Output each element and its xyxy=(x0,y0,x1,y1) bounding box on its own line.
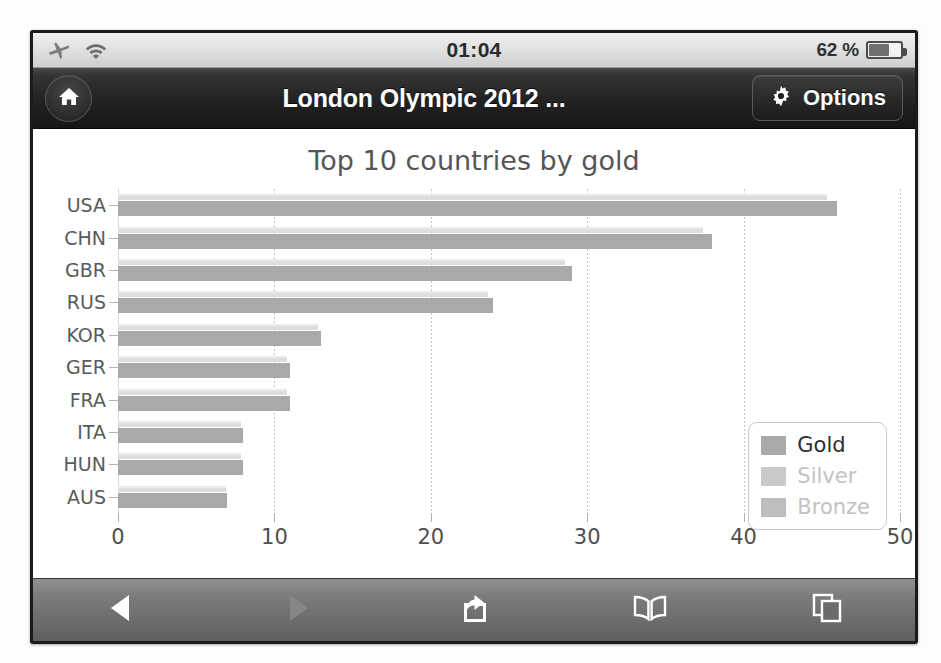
back-button[interactable] xyxy=(73,587,169,633)
y-axis-label-hun: HUN xyxy=(33,453,106,475)
home-icon xyxy=(58,86,80,111)
bar-gold xyxy=(118,331,321,346)
y-tick xyxy=(109,335,118,336)
legend-item-silver[interactable]: Silver xyxy=(761,464,870,488)
legend-label-gold: Gold xyxy=(797,433,845,457)
bar-silver xyxy=(118,423,241,427)
y-tick xyxy=(109,400,118,401)
bar-silver xyxy=(118,293,488,297)
bar-gold xyxy=(118,428,243,443)
bar-silver xyxy=(118,358,287,362)
chart-legend[interactable]: Gold Silver Bronze xyxy=(748,422,887,530)
share-icon xyxy=(458,592,490,628)
bar-gold xyxy=(118,460,243,475)
bar-silver xyxy=(118,326,318,330)
battery-icon xyxy=(866,41,903,59)
legend-swatch-gold xyxy=(761,436,786,455)
x-axis-label: 0 xyxy=(111,525,124,549)
legend-label-bronze: Bronze xyxy=(797,495,870,519)
x-axis-label: 50 xyxy=(887,525,914,549)
phone-device-frame: 01:04 62 % London Olympic 2012 ... Optio… xyxy=(30,30,918,644)
gridline-50 xyxy=(900,189,901,513)
bar-gold xyxy=(118,234,712,249)
forward-arrow-icon xyxy=(285,593,311,627)
x-tick-10 xyxy=(274,513,275,522)
legend-item-gold[interactable]: Gold xyxy=(761,433,870,457)
home-button[interactable] xyxy=(45,75,92,122)
bar-gold xyxy=(118,363,290,378)
screenshot-root: 01:04 62 % London Olympic 2012 ... Optio… xyxy=(0,0,941,663)
x-tick-0 xyxy=(118,513,119,522)
y-axis-label-ita: ITA xyxy=(33,421,106,443)
battery-fill xyxy=(869,44,889,56)
status-bar: 01:04 62 % xyxy=(33,33,915,68)
tabs-pages-icon xyxy=(812,593,842,627)
bar-silver xyxy=(118,229,703,233)
bar-group xyxy=(118,356,900,378)
bar-group xyxy=(118,227,900,249)
y-axis-label-kor: KOR xyxy=(33,324,106,346)
share-button[interactable] xyxy=(426,587,522,633)
bar-gold xyxy=(118,493,227,508)
bar-silver xyxy=(118,488,226,492)
bar-gold xyxy=(118,298,493,313)
y-tick xyxy=(109,432,118,433)
bar-gold xyxy=(118,201,837,216)
bar-silver xyxy=(118,261,565,265)
x-axis-label: 30 xyxy=(574,525,601,549)
legend-swatch-bronze xyxy=(761,498,786,517)
y-axis-label-chn: CHN xyxy=(33,227,106,249)
legend-item-bronze[interactable]: Bronze xyxy=(761,495,870,519)
y-axis-label-usa: USA xyxy=(33,194,106,216)
bar-silver xyxy=(118,196,827,200)
y-axis-label-gbr: GBR xyxy=(33,259,106,281)
bar-group xyxy=(118,291,900,313)
x-axis-label: 10 xyxy=(261,525,288,549)
browser-toolbar xyxy=(33,578,915,641)
bar-group xyxy=(118,194,900,216)
navigation-bar: London Olympic 2012 ... Options xyxy=(33,68,915,129)
back-arrow-icon xyxy=(108,593,134,627)
x-axis-label: 20 xyxy=(417,525,444,549)
options-button[interactable]: Options xyxy=(752,75,903,121)
legend-label-silver: Silver xyxy=(797,464,856,488)
page-title: London Olympic 2012 ... xyxy=(123,84,725,113)
y-axis-label-ger: GER xyxy=(33,356,106,378)
gear-icon xyxy=(769,84,793,112)
tabs-button[interactable] xyxy=(779,587,875,633)
bookmarks-book-icon xyxy=(633,595,667,625)
forward-button xyxy=(250,587,346,633)
y-tick xyxy=(109,302,118,303)
bar-group xyxy=(118,259,900,281)
bar-silver xyxy=(118,391,287,395)
status-bar-clock: 01:04 xyxy=(33,38,915,62)
y-tick xyxy=(109,464,118,465)
bar-gold xyxy=(118,266,572,281)
y-tick xyxy=(109,367,118,368)
x-tick-30 xyxy=(587,513,588,522)
options-button-label: Options xyxy=(803,85,886,111)
y-tick xyxy=(109,270,118,271)
y-axis-label-aus: AUS xyxy=(33,486,106,508)
y-axis-label-fra: FRA xyxy=(33,389,106,411)
x-tick-20 xyxy=(431,513,432,522)
bookmarks-button[interactable] xyxy=(602,587,698,633)
x-tick-50 xyxy=(900,513,901,522)
bar-group xyxy=(118,389,900,411)
bar-gold xyxy=(118,396,290,411)
y-tick xyxy=(109,205,118,206)
web-content-area: Top 10 countries by gold USACHNGBRRUSKOR… xyxy=(33,129,915,578)
y-axis-label-rus: RUS xyxy=(33,291,106,313)
y-tick xyxy=(109,238,118,239)
legend-swatch-silver xyxy=(761,467,786,486)
y-tick xyxy=(109,497,118,498)
bar-silver xyxy=(118,455,241,459)
bar-group xyxy=(118,324,900,346)
x-tick-40 xyxy=(744,513,745,522)
